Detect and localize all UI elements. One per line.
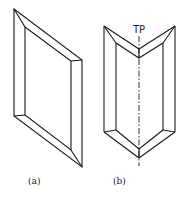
panel-a-bevel-tl	[14, 9, 25, 27]
panel-b-axis-label: TP	[132, 24, 145, 35]
panel-b-label: (b)	[113, 176, 126, 186]
panel-a-outer-edge	[14, 9, 82, 167]
panel-b-bevel-bl	[104, 130, 116, 132]
panel-b-bevel-br	[163, 130, 175, 132]
panel-a-bevel-tr	[71, 60, 82, 61]
panel-a-inner-edge	[25, 27, 71, 150]
diagram-canvas: (a) TP (b)	[0, 0, 190, 203]
panel-b-frame	[104, 26, 175, 166]
panel-a-bevel-br	[71, 150, 82, 167]
panel-b-bevel-tl	[104, 26, 116, 43]
panel-a-label: (a)	[28, 176, 40, 186]
panel-a-frame	[14, 9, 82, 167]
panel-a-bevel-bl	[14, 115, 25, 116]
panel-b-bevel-tr	[163, 26, 175, 43]
